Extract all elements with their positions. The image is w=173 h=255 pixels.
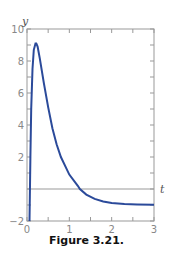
x-axis-label: t <box>160 183 165 196</box>
ticks <box>27 29 154 221</box>
svg-text:6: 6 <box>18 88 24 99</box>
svg-text:4: 4 <box>18 120 24 131</box>
svg-text:2: 2 <box>18 152 24 163</box>
plot-frame <box>27 29 154 221</box>
svg-text:8: 8 <box>18 56 24 67</box>
y-axis-label: y <box>21 15 29 28</box>
svg-text:−2: −2 <box>9 216 24 227</box>
chart: 0123−2246810 y t <box>0 0 173 235</box>
figure-caption: Figure 3.21. <box>0 234 173 247</box>
curve-line <box>30 43 155 221</box>
